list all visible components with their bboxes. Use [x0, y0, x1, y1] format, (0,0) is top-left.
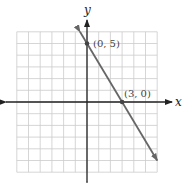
point-b-label: (3, 0): [124, 88, 151, 99]
point-a-label: (0, 5): [93, 38, 120, 49]
y-axis-label: y: [83, 3, 91, 17]
point-0-5: [85, 41, 90, 46]
x-axis-label: x: [175, 95, 182, 109]
point-3-0: [120, 100, 125, 105]
coordinate-graph: x y (0, 5) (3, 0): [0, 0, 186, 183]
